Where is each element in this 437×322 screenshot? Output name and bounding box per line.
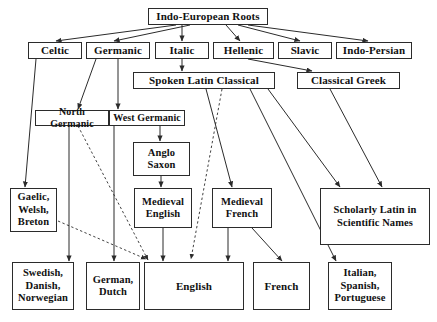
node-label-germanic: Germanic [87,44,149,57]
edge-hellenic-to-classical_greek [248,59,312,71]
edge-gaelic_welsh_breton-to-english [58,221,146,259]
edge-medieval_french-to-french [252,228,282,261]
node-label-north_germanic: North Germanic [36,106,108,130]
node-label-hellenic: Hellenic [214,44,273,57]
node-label-scholarly_latin: Scholarly Latin inScientific Names [321,204,429,229]
node-scholarly_latin[interactable]: Scholarly Latin inScientific Names [320,188,430,245]
node-label-french: French [254,280,309,293]
edge-indo_european_roots-to-indo_persian [248,25,368,41]
node-german_dutch[interactable]: German,Dutch [86,262,140,310]
node-label-indo_persian: Indo-Persian [337,44,411,57]
node-label-italian_spanish_portuguese: Italian,Spanish,Portuguese [329,267,391,304]
node-classical_greek[interactable]: Classical Greek [297,72,400,89]
edge-indo_european_roots-to-celtic [56,25,176,41]
node-germanic[interactable]: Germanic [86,42,150,59]
node-english[interactable]: English [144,262,244,310]
edge-indo_european_roots-to-hellenic [226,25,240,41]
node-celtic[interactable]: Celtic [28,42,82,59]
node-label-indo_european_roots: Indo-European Roots [149,10,267,23]
node-label-celtic: Celtic [29,44,81,57]
node-spoken_latin[interactable]: Spoken Latin Classical [133,72,275,89]
node-label-medieval_english: MedievalEnglish [135,196,191,221]
node-french[interactable]: French [253,262,310,310]
diagram-canvas: Indo-European RootsCelticGermanicItalicH… [0,0,437,322]
edge-spoken_latin-to-scholarly_latin [268,89,340,187]
node-label-german_dutch: German,Dutch [87,274,139,299]
node-label-gaelic_welsh_breton: Gaelic,Welsh,Breton [11,191,56,228]
node-swedish_danish_norwegian[interactable]: Swedish,Danish,Norwegian [12,262,74,310]
node-italian_spanish_portuguese[interactable]: Italian,Spanish,Portuguese [328,262,392,310]
node-anglo_saxon[interactable]: AngloSaxon [133,142,190,176]
node-indo_european_roots[interactable]: Indo-European Roots [148,8,268,25]
edge-indo_european_roots-to-germanic [114,25,190,41]
node-indo_persian[interactable]: Indo-Persian [336,42,412,59]
node-label-anglo_saxon: AngloSaxon [134,147,189,172]
node-label-west_germanic: West Germanic [110,112,184,124]
node-medieval_english[interactable]: MedievalEnglish [134,188,192,228]
node-west_germanic[interactable]: West Germanic [109,110,185,126]
node-label-italic: Italic [156,44,208,57]
node-gaelic_welsh_breton[interactable]: Gaelic,Welsh,Breton [10,188,57,232]
node-hellenic[interactable]: Hellenic [213,42,274,59]
node-label-spoken_latin: Spoken Latin Classical [134,74,274,87]
node-italic[interactable]: Italic [155,42,209,59]
node-label-swedish_danish_norwegian: Swedish,Danish,Norwegian [13,267,73,304]
node-label-classical_greek: Classical Greek [298,74,399,87]
edge-germanic-to-north_germanic [78,59,96,109]
node-label-medieval_french: MedievalFrench [213,196,271,221]
edge-spoken_latin-to-english [191,89,222,259]
edge-classical_greek-to-scholarly_latin [330,89,382,187]
node-label-english: English [145,280,243,293]
node-medieval_french[interactable]: MedievalFrench [212,188,272,228]
node-north_germanic[interactable]: North Germanic [35,110,109,126]
node-label-slavic: Slavic [279,44,331,57]
node-slavic[interactable]: Slavic [278,42,332,59]
